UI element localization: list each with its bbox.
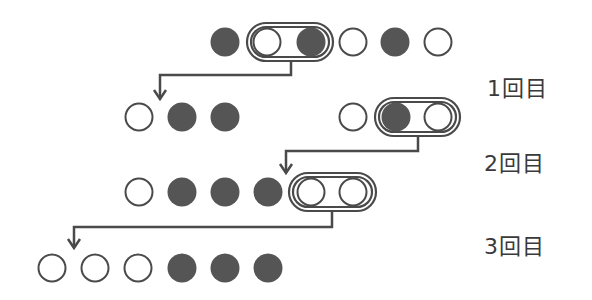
filled-circle [297, 28, 326, 57]
empty-circle [126, 104, 153, 131]
filled-circle [211, 254, 240, 283]
empty-circle [82, 255, 109, 282]
empty-circle [340, 29, 367, 56]
step-label-2: 2回目 [484, 145, 545, 177]
filled-circle [381, 28, 410, 57]
step-label-3: 3回目 [484, 228, 545, 260]
filled-circle [211, 28, 240, 57]
filled-circle [211, 178, 240, 207]
filled-circle [168, 103, 197, 132]
filled-circle [254, 178, 283, 207]
empty-circle [125, 255, 152, 282]
filled-circle [168, 254, 197, 283]
filled-circle [168, 178, 197, 207]
empty-circle [340, 179, 367, 206]
empty-circle [298, 179, 325, 206]
empty-circle [39, 255, 66, 282]
move-arrow-line [286, 136, 418, 173]
filled-circle [211, 103, 240, 132]
move-arrow-line [160, 61, 291, 99]
filled-circle [382, 103, 411, 132]
step-label-1: 1回目 [487, 70, 548, 102]
empty-circle [254, 29, 281, 56]
empty-circle [425, 29, 452, 56]
empty-circle [340, 104, 367, 131]
empty-circle [425, 104, 452, 131]
move-arrow-line [74, 211, 332, 248]
filled-circle [254, 254, 283, 283]
empty-circle [126, 179, 153, 206]
